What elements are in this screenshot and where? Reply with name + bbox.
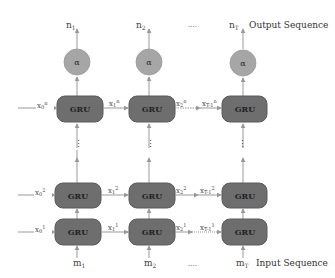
vertical-ellipsis: ⋮ (238, 139, 247, 149)
output-label-n1: n1 (66, 20, 76, 31)
state-label-x1n: x1n (109, 98, 120, 108)
gru-label: GRU (142, 191, 162, 201)
output-sequence-label: Output Sequence (249, 20, 328, 30)
gru-label: GRU (235, 227, 255, 237)
input-label-m2: m2 (144, 258, 157, 269)
state-label-x11: x11 (108, 222, 118, 232)
input-label-m1: m1 (73, 258, 85, 269)
input-sequence-label: Input Sequence (256, 258, 328, 268)
gru-label: GRU (235, 191, 255, 201)
alpha-label: α (74, 58, 80, 67)
gru-label: GRU (235, 104, 255, 114)
gru-label: GRU (70, 104, 90, 114)
ellipsis-bottom: .... (188, 260, 197, 268)
col1-col2-connections: x1n x12 x11 (101, 98, 128, 232)
column-3: nT Output Sequence α GRU ⋮ GRU GRU mT In… (222, 20, 328, 269)
state-label-xT-12: xT-12 (200, 185, 215, 195)
gru-label: GRU (68, 191, 88, 201)
output-label-nT: nT (229, 20, 239, 31)
gru-label: GRU (142, 227, 162, 237)
state-label-x2n: x2n (176, 98, 187, 108)
state-label-xT-11: xT-11 (200, 222, 215, 232)
input-label-mT: mT (236, 258, 249, 269)
gru-label: GRU (68, 227, 88, 237)
state-label-xT-1n: xT-1n (202, 98, 218, 108)
state-label-x12: x12 (108, 185, 118, 195)
gru-diagram: n1 α GRU ⋮ GRU GRU m1 x0n x02 x01 (0, 0, 335, 278)
column-1: n1 α GRU ⋮ GRU GRU m1 x0n x02 x01 (18, 20, 103, 269)
ellipsis-top: .... (188, 21, 197, 29)
state-label-x21: x21 (176, 222, 186, 232)
gru-label: GRU (142, 104, 162, 114)
column-2: n2 α GRU ⋮ GRU GRU m2 (129, 20, 175, 269)
col2-col3-connections: x2n xT-1n x22 xT-12 x21 xT-11 .... .... (175, 21, 221, 268)
state-label-x22: x22 (176, 185, 186, 195)
vertical-ellipsis: ⋮ (146, 139, 155, 149)
alpha-label: α (240, 59, 246, 68)
vertical-ellipsis: ⋮ (74, 139, 83, 149)
output-label-n2: n2 (136, 20, 146, 31)
alpha-label: α (146, 58, 152, 67)
